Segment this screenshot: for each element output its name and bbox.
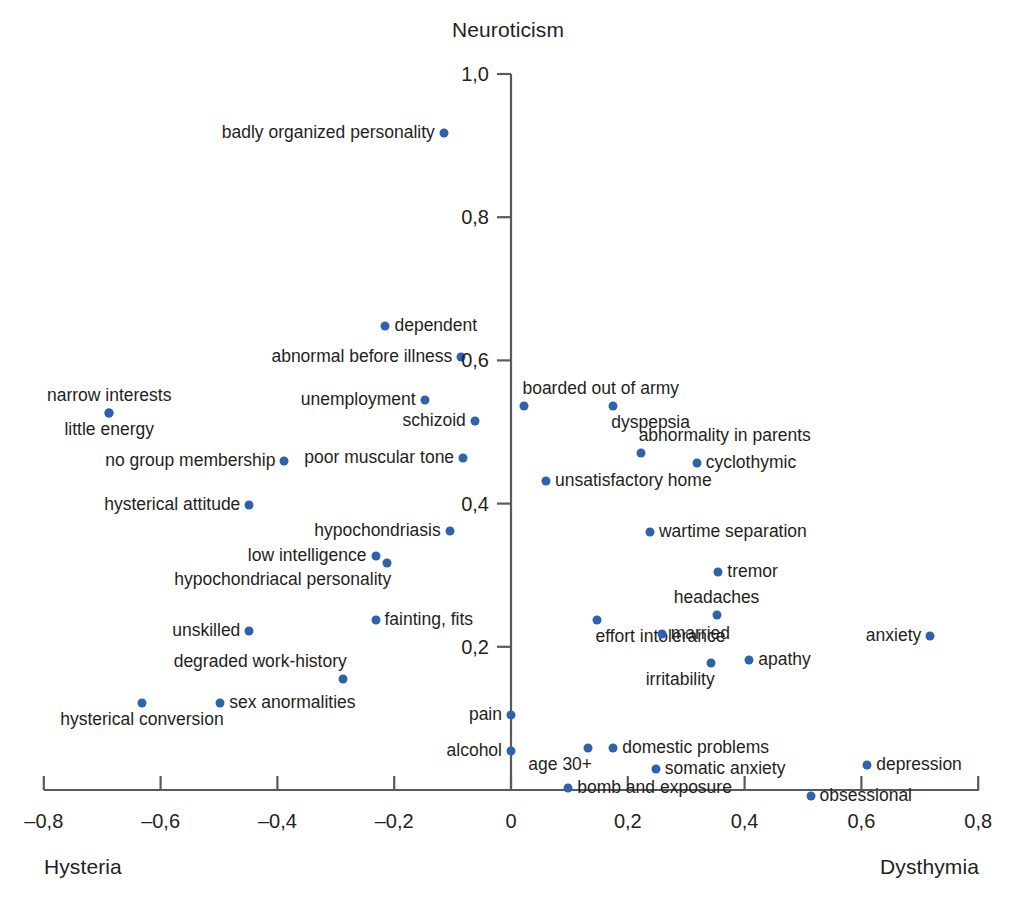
data-point bbox=[520, 401, 529, 410]
data-point-label: somatic anxiety bbox=[665, 760, 786, 778]
data-point-label: cyclothymic bbox=[706, 454, 796, 472]
data-point bbox=[657, 629, 666, 638]
data-point-label: hysterical conversion bbox=[60, 711, 223, 729]
data-point bbox=[507, 746, 516, 755]
data-point bbox=[445, 526, 454, 535]
scatter-plot-figure: badly organized personalitydependentabno… bbox=[0, 0, 1016, 918]
y-tick-label: 0,8 bbox=[461, 206, 489, 229]
data-point-label: anxiety bbox=[866, 627, 921, 645]
data-point-label: domestic problems bbox=[622, 740, 769, 758]
data-point bbox=[470, 417, 479, 426]
data-point-label: dependent bbox=[394, 317, 477, 335]
x-axis-title-right: Dysthymia bbox=[880, 855, 979, 879]
y-tick-label: 0,6 bbox=[461, 349, 489, 372]
data-point-label: hypochondriasis bbox=[314, 522, 440, 540]
x-tick-label: –0,2 bbox=[375, 810, 414, 833]
plot-area: badly organized personalitydependentabno… bbox=[0, 0, 1016, 918]
data-point-label: age 30+ bbox=[528, 757, 592, 775]
data-point-label: pain bbox=[469, 706, 502, 724]
data-point-label: no group membership bbox=[105, 452, 275, 470]
data-point-label: poor muscular tone bbox=[304, 449, 454, 467]
data-point-label: wartime separation bbox=[659, 523, 807, 541]
data-point-label: little energy bbox=[64, 421, 154, 439]
data-point bbox=[420, 395, 429, 404]
data-point-label: sex anormalities bbox=[229, 694, 355, 712]
data-point bbox=[383, 559, 392, 568]
data-point bbox=[371, 616, 380, 625]
data-point-label: apathy bbox=[758, 651, 811, 669]
data-point-label: abnormality in parents bbox=[639, 428, 811, 446]
data-point bbox=[692, 458, 701, 467]
y-axis-title: Neuroticism bbox=[0, 18, 1016, 42]
data-point bbox=[245, 501, 254, 510]
data-point-label: headaches bbox=[674, 589, 760, 607]
data-point-label: badly organized personality bbox=[222, 124, 435, 142]
y-tick-label: 1,0 bbox=[461, 63, 489, 86]
x-tick-label: 0,8 bbox=[964, 810, 992, 833]
data-point-label: fainting, fits bbox=[385, 612, 474, 630]
data-point bbox=[459, 453, 468, 462]
data-point-label: unsatisfactory home bbox=[555, 472, 712, 490]
data-point bbox=[609, 744, 618, 753]
data-point bbox=[863, 760, 872, 769]
data-point bbox=[371, 551, 380, 560]
data-point bbox=[651, 764, 660, 773]
data-point bbox=[609, 401, 618, 410]
x-tick-label: –0,6 bbox=[141, 810, 180, 833]
data-point bbox=[926, 632, 935, 641]
x-axis-title-left: Hysteria bbox=[44, 855, 122, 879]
data-point-label: hysterical attitude bbox=[104, 496, 240, 514]
data-point bbox=[593, 616, 602, 625]
data-point-label: degraded work-history bbox=[174, 653, 347, 671]
data-point bbox=[338, 675, 347, 684]
data-point bbox=[245, 627, 254, 636]
data-point bbox=[381, 322, 390, 331]
data-point bbox=[542, 476, 551, 485]
data-point bbox=[714, 567, 723, 576]
x-tick-label: 0 bbox=[505, 810, 516, 833]
data-point-label: married bbox=[671, 625, 730, 643]
x-tick-label: –0,4 bbox=[258, 810, 297, 833]
data-point bbox=[706, 658, 715, 667]
data-point-label: narrow interests bbox=[47, 387, 172, 405]
data-point-label: low intelligence bbox=[248, 547, 367, 565]
data-point-label: abnormal before illness bbox=[271, 348, 452, 366]
data-point bbox=[137, 698, 146, 707]
data-point bbox=[507, 710, 516, 719]
x-tick-label: 0,4 bbox=[731, 810, 759, 833]
data-point bbox=[584, 744, 593, 753]
data-point-label: depression bbox=[876, 756, 962, 774]
data-point bbox=[216, 698, 225, 707]
data-point bbox=[712, 610, 721, 619]
data-point bbox=[806, 791, 815, 800]
data-point-label: tremor bbox=[727, 563, 778, 581]
data-point-label: unemployment bbox=[301, 391, 416, 409]
data-point-label: irritability bbox=[646, 671, 715, 689]
data-point-label: obsessional bbox=[820, 787, 912, 805]
data-point-label: hypochondriacal personality bbox=[174, 571, 391, 589]
y-tick-label: 0,4 bbox=[461, 492, 489, 515]
data-point bbox=[564, 783, 573, 792]
data-point bbox=[745, 655, 754, 664]
data-point-label: boarded out of army bbox=[522, 380, 679, 398]
data-point bbox=[280, 456, 289, 465]
data-point bbox=[105, 408, 114, 417]
data-point bbox=[439, 128, 448, 137]
data-point-label: alcohol bbox=[447, 742, 502, 760]
data-point-label: schizoid bbox=[403, 413, 466, 431]
x-tick-label: 0,6 bbox=[847, 810, 875, 833]
x-tick-label: –0,8 bbox=[24, 810, 63, 833]
x-tick-label: 0,2 bbox=[614, 810, 642, 833]
y-tick-label: 0,2 bbox=[461, 635, 489, 658]
data-point bbox=[636, 449, 645, 458]
data-point bbox=[645, 528, 654, 537]
data-point-label: bomb and exposure bbox=[577, 779, 732, 797]
data-point-label: unskilled bbox=[172, 622, 240, 640]
